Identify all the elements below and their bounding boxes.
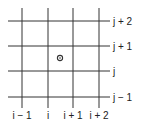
column-label: i − 1	[12, 110, 32, 121]
row-labels: j + 2j + 1jj − 1	[112, 16, 133, 103]
row-label: j − 1	[112, 92, 133, 103]
grid-diagram: j + 2j + 1jj − 1 i − 1ii + 1i + 2	[0, 0, 142, 125]
center-point-marker	[57, 55, 62, 60]
row-label: j + 1	[112, 41, 133, 52]
column-labels: i − 1ii + 1i + 2	[12, 110, 109, 121]
column-label: i + 1	[63, 110, 83, 121]
dot-icon	[59, 57, 61, 59]
horizontal-grid-lines	[8, 21, 110, 97]
column-label: i + 2	[89, 110, 109, 121]
row-label: j	[112, 66, 115, 77]
row-label: j + 2	[112, 16, 133, 27]
column-label: i	[47, 110, 49, 121]
